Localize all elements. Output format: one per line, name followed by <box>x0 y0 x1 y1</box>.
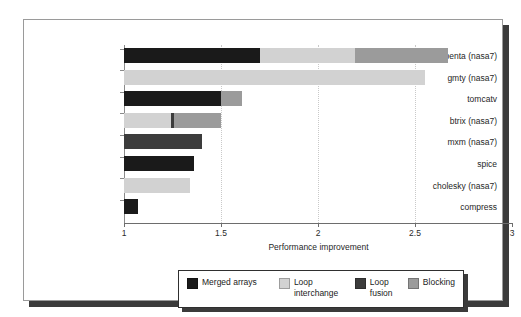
bar-segment-merged-arrays <box>124 48 260 63</box>
bar-segment-merged-arrays <box>124 156 194 171</box>
y-axis-label-gmty: gmty (nasa7) <box>447 73 497 83</box>
x-tick-label-1.5: 1.5 <box>215 228 227 238</box>
bar-segment-loop-interchange <box>124 70 425 85</box>
y-axis-label-tomcatv: tomcatv <box>467 94 497 104</box>
legend-label: Merged arrays <box>202 277 257 288</box>
y-axis-label-spice: spice <box>477 159 497 169</box>
x-tick-label-1: 1 <box>122 228 127 238</box>
legend-swatch-loop-interchange <box>279 278 290 289</box>
bar-segment-blocking <box>221 91 242 106</box>
bar-mxm <box>124 134 202 149</box>
legend-item-merged-arrays: Merged arrays <box>187 277 279 289</box>
x-tick-1 <box>124 223 125 227</box>
bar-segment-loop-fusion <box>124 134 202 149</box>
chart-legend: Merged arraysLoop interchangeLoop fusion… <box>178 270 464 308</box>
bar-segment-merged-arrays <box>124 91 221 106</box>
legend-swatch-blocking <box>408 278 419 289</box>
legend-label: Blocking <box>423 277 455 288</box>
legend-swatch-loop-fusion <box>355 278 366 289</box>
x-axis-title: Performance improvement <box>124 242 513 252</box>
bar-vpenta <box>124 48 448 63</box>
x-tick-1.5 <box>221 223 222 227</box>
y-axis-label-vpenta: vpenta (nasa7) <box>440 51 497 61</box>
y-axis-label-compress: compress <box>460 202 497 212</box>
figure-frame: 11.522.53 vpenta (nasa7)gmty (nasa7)tomc… <box>23 19 503 301</box>
bar-cholesky <box>124 178 190 193</box>
legend-swatch-merged-arrays <box>187 278 198 289</box>
x-tick-2 <box>318 223 319 227</box>
y-axis-label-cholesky: cholesky (nasa7) <box>433 181 497 191</box>
legend-label: Loop interchange <box>294 277 355 298</box>
legend-label: Loop fusion <box>370 277 408 298</box>
x-tick-label-2: 2 <box>316 228 321 238</box>
bar-gmty <box>124 70 425 85</box>
x-tick-2.5 <box>415 223 416 227</box>
legend-item-loop-interchange: Loop interchange <box>279 277 355 298</box>
legend-item-loop-fusion: Loop fusion <box>355 277 408 298</box>
bar-segment-loop-interchange <box>260 48 355 63</box>
bar-btrix <box>124 113 221 128</box>
bar-tomcatv <box>124 91 242 106</box>
bar-segment-blocking <box>174 113 221 128</box>
legend-item-blocking: Blocking <box>408 277 455 289</box>
bar-segment-loop-interchange <box>124 178 190 193</box>
bar-segment-loop-interchange <box>124 113 171 128</box>
bar-segment-merged-arrays <box>124 199 138 214</box>
bar-segment-blocking <box>355 48 448 63</box>
bar-spice <box>124 156 194 171</box>
figure-root: 11.522.53 vpenta (nasa7)gmty (nasa7)tomc… <box>0 0 521 317</box>
y-axis-label-btrix: btrix (nasa7) <box>450 116 497 126</box>
x-tick-label-2.5: 2.5 <box>409 228 421 238</box>
y-axis-label-mxm: mxm (nasa7) <box>447 137 497 147</box>
bar-compress <box>124 199 138 214</box>
x-tick-label-3: 3 <box>510 228 515 238</box>
x-tick-3 <box>512 223 513 227</box>
